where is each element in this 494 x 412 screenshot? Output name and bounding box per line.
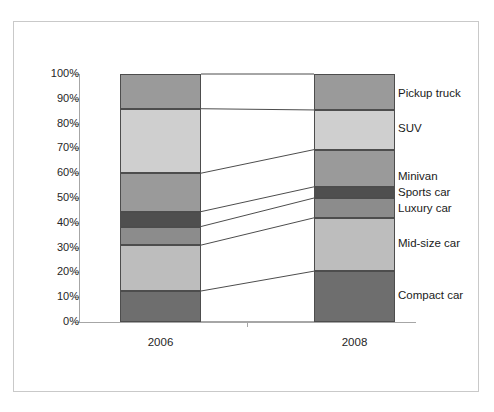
chart-figure: 0%10%20%30%40%50%60%70%80%90%100% 200620… (0, 0, 494, 412)
stack-connector-lines (0, 0, 494, 412)
connector-line-sports-car (201, 187, 314, 212)
connector-line-compact-car (201, 271, 314, 291)
connector-line-minivan (201, 150, 314, 174)
connector-line-suv (201, 109, 314, 110)
